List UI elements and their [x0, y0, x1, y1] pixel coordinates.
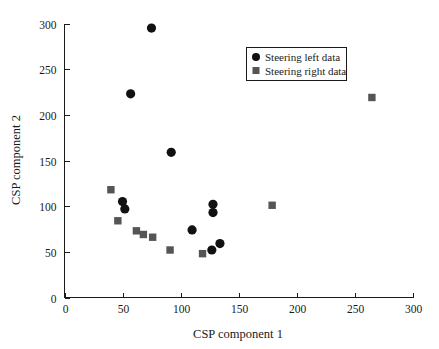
y-tick-label: 300: [39, 19, 57, 31]
data-point-circle: [126, 89, 135, 98]
x-tick-label: 0: [63, 303, 69, 315]
y-tick-label: 150: [39, 156, 57, 168]
data-point-square: [114, 217, 121, 224]
data-point-square: [107, 186, 114, 193]
data-point-circle: [208, 208, 217, 217]
x-axis-tick-labels: 050100150200250300: [63, 303, 423, 315]
x-tick-label: 250: [347, 303, 365, 315]
data-point-circle: [207, 245, 216, 254]
y-axis-tick-labels: 050100150200250300: [39, 19, 57, 305]
scatter-chart-figure: 050100150200250300 050100150200250300 CS…: [0, 0, 439, 349]
legend-circle-marker-icon: [252, 53, 260, 61]
y-tick-label: 200: [39, 110, 57, 122]
x-tick-label: 50: [118, 303, 130, 315]
data-point-circle: [120, 204, 129, 213]
legend-label-steering-left: Steering left data: [265, 51, 340, 63]
axes-spines: [65, 24, 413, 298]
y-axis-title: CSP component 2: [9, 115, 23, 205]
data-point-circle: [147, 23, 156, 32]
data-point-square: [149, 234, 156, 241]
data-point-circle: [208, 200, 217, 209]
data-point-square: [268, 202, 275, 209]
y-tick-label: 250: [39, 64, 57, 76]
data-point-circle: [215, 239, 224, 248]
plot-canvas: 050100150200250300 050100150200250300 CS…: [0, 0, 439, 349]
data-point-square: [166, 246, 173, 253]
legend-label-steering-right: Steering right data: [265, 65, 346, 77]
data-point-square: [133, 227, 140, 234]
x-tick-label: 300: [405, 303, 423, 315]
series-steering-right-data: [107, 94, 375, 258]
data-point-square: [368, 94, 375, 101]
data-point-square: [199, 250, 206, 257]
y-tick-label: 0: [51, 293, 57, 305]
x-axis-title: CSP component 1: [193, 327, 283, 341]
y-axis-ticks: [65, 25, 70, 299]
data-point-circle: [167, 148, 176, 157]
x-tick-label: 200: [289, 303, 307, 315]
x-tick-label: 100: [173, 303, 191, 315]
series-steering-left-data: [118, 23, 225, 254]
chart-legend: Steering left data Steering right data: [247, 48, 347, 81]
axis-spine-path: [65, 24, 413, 298]
data-point-circle: [188, 225, 197, 234]
legend-square-marker-icon: [253, 67, 260, 74]
y-tick-label: 50: [45, 247, 57, 259]
x-tick-label: 150: [231, 303, 249, 315]
data-point-square: [140, 231, 147, 238]
x-axis-ticks: [66, 293, 414, 298]
y-tick-label: 100: [39, 201, 57, 213]
